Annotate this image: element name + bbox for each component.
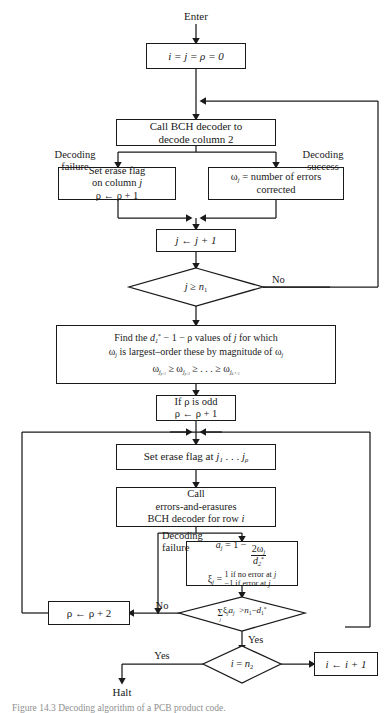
edge-label-decoding-success: Decoding success <box>286 149 360 172</box>
call-ee-line2: errors-and-erasures <box>155 501 236 513</box>
decision-sum-label[interactable]: Σjξjaj >n1−d1* <box>194 604 290 623</box>
set-erase-col-line2: on column j <box>92 177 142 189</box>
find-values-line3: ωjρ+1 ≥ ωjρ+2 ≥ . . . ≥ ωjd1*−1 <box>152 363 239 377</box>
decision-j-ge-n1-label[interactable]: j ≥ n1 <box>161 277 231 297</box>
call-bch-line2: decode column 2 <box>158 133 233 146</box>
find-values-line1: Find the d1* − 1 − ρ values of j for whi… <box>114 332 277 344</box>
rho-odd-box[interactable]: If ρ is odd ρ ← ρ + 1 <box>156 395 236 421</box>
i-increment-text: i ← i + 1 <box>325 658 366 671</box>
omega-line2: corrected <box>256 184 295 196</box>
j-increment-box[interactable]: j ← j + 1 <box>156 229 236 252</box>
init-box[interactable]: i = j = ρ = 0 <box>146 43 246 69</box>
xi-case-error: −1 if error at j <box>225 579 271 588</box>
edge-label-yes-sum: Yes <box>248 634 274 646</box>
set-erase-flag-at-j-box[interactable]: Set erase flag at j1 . . . jρ <box>116 444 276 470</box>
a-definition-line: aj = 1 − 2ωjd2* <box>216 539 268 567</box>
edge-label-no-top: No <box>272 274 296 286</box>
j-increment-text: j ← j + 1 <box>175 234 216 247</box>
rho-odd-line2: ρ ← ρ + 1 <box>175 408 218 420</box>
call-ee-line3: BCH decoder for row i <box>148 513 245 525</box>
decision-i-eq-n2-label[interactable]: i = n2 <box>214 655 270 673</box>
figure-caption: Figure 14.3 Decoding algorithm of a PCB … <box>12 703 226 713</box>
omega-line1: ωj = number of errors <box>231 171 321 184</box>
rho-plus-two-text: ρ ← ρ + 2 <box>67 607 112 620</box>
call-ee-line1: Call <box>187 488 205 500</box>
decision-j-ge-n1-text: j ≥ n1 <box>185 281 207 293</box>
xi-definition-line: ξj = 1 if no error at j −1 if error at j <box>208 570 276 588</box>
call-bch-line1: Call BCH decoder to <box>150 120 243 133</box>
decision-sum-text: Σjξjaj >n1−d1* <box>217 605 266 622</box>
xi-case-no-error: 1 if no error at j <box>225 570 277 579</box>
i-increment-box[interactable]: i ← i + 1 <box>314 652 378 676</box>
set-erase-j-text: Set erase flag at j1 . . . jρ <box>144 450 249 464</box>
enter-label: Enter <box>176 10 216 22</box>
call-bch-decoder-column-box[interactable]: Call BCH decoder to decode column 2 <box>116 119 276 146</box>
rho-plus-two-box[interactable]: ρ ← ρ + 2 <box>48 601 130 625</box>
find-values-box[interactable]: Find the d1* − 1 − ρ values of j for whi… <box>56 325 336 384</box>
halt-label: Halt <box>102 686 142 698</box>
init-box-text: i = j = ρ = 0 <box>168 50 224 63</box>
find-values-line2: ωj is largest–order these by magnitude o… <box>109 346 283 358</box>
rho-odd-line1: If ρ is odd <box>175 396 218 408</box>
edge-label-no-bottom: No <box>150 600 174 612</box>
edge-label-decoding-failure-top: Decoding failure <box>38 149 112 172</box>
call-errors-and-erasures-decoder-box[interactable]: Call errors-and-erasures BCH decoder for… <box>116 487 276 527</box>
set-erase-col-line3: ρ ← ρ + 1 <box>96 190 139 202</box>
decision-i-eq-n2-text: i = n2 <box>231 658 254 670</box>
edge-label-yes-halt: Yes <box>148 650 176 662</box>
edge-label-decoding-failure-row: Decoding failure <box>162 530 222 553</box>
